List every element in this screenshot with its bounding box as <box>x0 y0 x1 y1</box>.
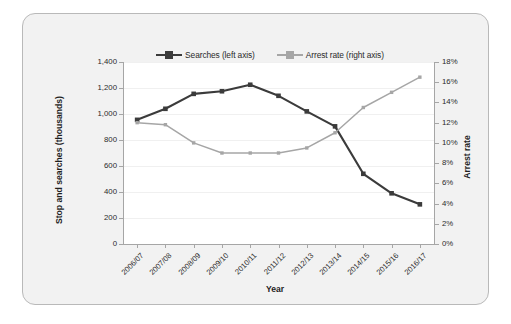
y-tick-label-left: 0 <box>77 240 117 248</box>
y-tick-label-right: 0% <box>442 240 482 248</box>
plot-wrapper: 02004006008001,0001,2001,400 0%2%4%6%8%1… <box>109 62 448 252</box>
legend-label-searches: Searches (left axis) <box>185 50 255 60</box>
data-point-marker <box>164 123 167 126</box>
data-point-marker <box>304 109 309 114</box>
legend-swatch-searches <box>156 51 182 60</box>
legend-swatch-arrest-rate <box>277 51 303 60</box>
series-line <box>137 77 420 153</box>
data-point-marker <box>277 151 280 154</box>
y-tick-left <box>119 244 123 245</box>
x-tick <box>279 244 280 248</box>
x-tick <box>335 244 336 248</box>
y-tick-right <box>435 224 439 225</box>
y-tick-label-left: 600 <box>77 162 117 170</box>
y-tick-label-left: 1,200 <box>77 84 117 92</box>
legend-entry-searches: Searches (left axis) <box>156 50 255 60</box>
x-tick <box>165 244 166 248</box>
y-axis-title-left: Stop and searches (thousands) <box>52 67 66 252</box>
y-tick-label-left: 400 <box>77 188 117 196</box>
data-point-marker <box>220 151 223 154</box>
y-tick-label-left: 200 <box>77 214 117 222</box>
data-point-marker <box>418 202 423 207</box>
y-tick-right <box>435 183 439 184</box>
data-point-marker <box>135 121 138 124</box>
data-point-marker <box>389 191 394 196</box>
series-searches <box>135 82 422 206</box>
y-tick-label-right: 10% <box>442 139 482 147</box>
y-tick-label-right: 6% <box>442 179 482 187</box>
y-tick-label-left: 800 <box>77 136 117 144</box>
y-tick-label-right: 8% <box>442 159 482 167</box>
chart-plot-container: Searches (left axis) Arrest rate (right … <box>30 22 481 296</box>
y-tick-label-right: 12% <box>442 119 482 127</box>
legend-entry-arrest-rate: Arrest rate (right axis) <box>277 50 384 60</box>
y-tick-label-right: 18% <box>442 58 482 66</box>
y-tick-right <box>435 244 439 245</box>
y-axis-title-left-text: Stop and searches (thousands) <box>54 96 64 224</box>
data-point-marker <box>333 124 338 129</box>
y-tick-right <box>435 204 439 205</box>
y-axis-right-line <box>434 62 435 245</box>
data-point-marker <box>362 106 365 109</box>
y-tick-label-left: 1,000 <box>77 110 117 118</box>
data-point-marker <box>418 75 421 78</box>
data-point-marker <box>305 146 308 149</box>
data-point-marker <box>191 92 196 97</box>
x-tick <box>392 244 393 248</box>
chart-figure: Searches (left axis) Arrest rate (right … <box>0 0 511 324</box>
x-tick <box>307 244 308 248</box>
x-tick <box>420 244 421 248</box>
x-tick <box>222 244 223 248</box>
y-tick-label-right: 16% <box>442 78 482 86</box>
y-tick-label-right: 2% <box>442 220 482 228</box>
y-tick-right <box>435 102 439 103</box>
x-tick <box>363 244 364 248</box>
data-point-marker <box>276 94 281 99</box>
series-layer <box>123 62 434 244</box>
series-line <box>137 85 420 205</box>
y-tick-label-right: 14% <box>442 98 482 106</box>
legend-marker-searches <box>165 51 173 59</box>
series-arrest-rate <box>135 75 421 154</box>
y-tick-label-left: 1,400 <box>77 58 117 66</box>
y-tick-right <box>435 62 439 63</box>
data-point-marker <box>361 172 366 177</box>
data-point-marker <box>220 89 225 94</box>
x-tick <box>137 244 138 248</box>
data-point-marker <box>248 82 253 87</box>
y-tick-right <box>435 123 439 124</box>
x-tick <box>194 244 195 248</box>
data-point-marker <box>192 141 195 144</box>
data-point-marker <box>249 151 252 154</box>
legend-label-arrest-rate: Arrest rate (right axis) <box>306 50 384 60</box>
data-point-marker <box>163 107 168 112</box>
data-point-marker <box>390 91 393 94</box>
y-tick-right <box>435 143 439 144</box>
y-tick-right <box>435 163 439 164</box>
data-point-marker <box>333 131 336 134</box>
y-tick-label-right: 4% <box>442 200 482 208</box>
x-tick <box>250 244 251 248</box>
y-tick-right <box>435 82 439 83</box>
x-axis-title: Year <box>125 284 425 294</box>
legend-marker-arrest-rate <box>286 51 294 59</box>
